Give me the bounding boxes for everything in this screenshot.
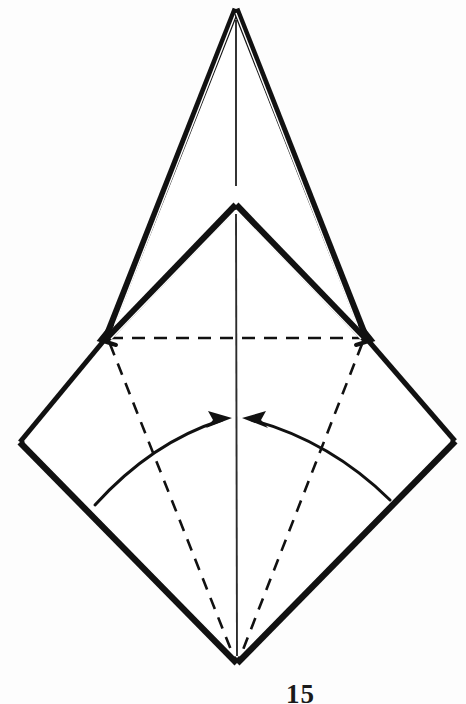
figure-page: 15 (0, 0, 466, 704)
center-line-lower-segment (236, 214, 237, 656)
figure-number-label: 15 (286, 684, 406, 704)
vertical-center-line (236, 20, 237, 656)
origami-diagram (0, 0, 466, 704)
